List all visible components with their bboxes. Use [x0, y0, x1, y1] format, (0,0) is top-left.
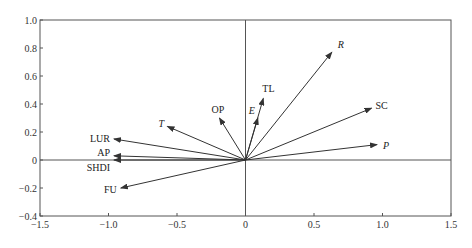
y-tick-label: 0.6 — [25, 71, 38, 82]
vector-label-ap: AP — [97, 147, 110, 158]
vector-label-fu: FU — [104, 184, 118, 195]
origin-lines — [40, 20, 451, 216]
loading-vectors: RSCPTLEOPTLURAPSHDIFU — [87, 39, 389, 195]
x-tick-label: 1.0 — [376, 219, 389, 230]
y-axis-ticks: −0.4−0.200.20.40.60.81.0 — [19, 15, 43, 222]
x-tick-label: 1.5 — [445, 219, 458, 230]
y-tick-label: 0 — [32, 155, 37, 166]
vector-label-e: E — [248, 105, 255, 116]
vector-label-r: R — [337, 39, 344, 50]
vector-label-lur: LUR — [90, 133, 110, 144]
vector-label-shdi: SHDI — [87, 162, 110, 173]
biplot-chart: −1.5−1.0−0.500.51.01.5 −0.4−0.200.20.40.… — [0, 0, 472, 248]
vector-fu — [121, 160, 246, 188]
y-tick-label: −0.2 — [19, 183, 37, 194]
vector-label-tl: TL — [262, 83, 274, 94]
x-tick-label: 0 — [243, 219, 248, 230]
vector-t — [167, 126, 245, 160]
vector-label-p: P — [382, 140, 389, 151]
vector-label-t: T — [158, 118, 165, 129]
x-tick-label: −1.0 — [99, 219, 117, 230]
y-tick-label: 0.8 — [25, 43, 38, 54]
y-tick-label: 0.2 — [25, 127, 38, 138]
vector-e — [246, 118, 258, 160]
vector-label-op: OP — [211, 104, 224, 115]
y-tick-label: 1.0 — [25, 15, 38, 26]
vector-op — [219, 118, 245, 160]
vector-r — [246, 52, 332, 160]
x-tick-label: −0.5 — [168, 219, 186, 230]
y-tick-label: 0.4 — [25, 99, 38, 110]
vector-label-sc: SC — [376, 100, 389, 111]
x-tick-label: 0.5 — [308, 219, 321, 230]
y-tick-label: −0.4 — [19, 211, 37, 222]
